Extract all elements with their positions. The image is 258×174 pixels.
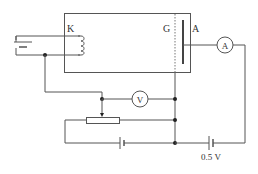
ammeter: A xyxy=(217,37,233,53)
cathode-label: K xyxy=(67,23,75,34)
ammeter-label: A xyxy=(222,41,229,51)
voltmeter: V xyxy=(132,91,148,107)
retarding-battery xyxy=(209,136,213,150)
cathode-coil xyxy=(78,36,84,55)
junction-dot xyxy=(173,97,177,101)
circuit-diagram: K G A A V 0.5 V xyxy=(0,0,258,174)
grid-label: G xyxy=(163,23,170,34)
junction-dot xyxy=(173,118,177,122)
retarding-voltage-label: 0.5 V xyxy=(201,152,221,162)
voltmeter-label: V xyxy=(137,95,144,105)
slider-arrow-icon xyxy=(100,113,104,117)
filament-battery xyxy=(12,36,80,55)
accelerating-battery xyxy=(120,137,124,149)
anode-label: A xyxy=(192,23,200,34)
rheostat xyxy=(87,118,120,124)
tube-enclosure xyxy=(65,14,191,73)
